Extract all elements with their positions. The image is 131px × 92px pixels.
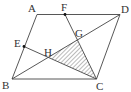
- shaded-triangle-hgc: [48, 40, 97, 79]
- label-f: F: [61, 1, 67, 13]
- label-b: B: [2, 79, 9, 91]
- geometry-figure: A F D E H G B C: [0, 0, 131, 92]
- label-d: D: [121, 3, 129, 15]
- label-c: C: [96, 80, 103, 92]
- point-f-dot: [64, 13, 67, 16]
- figure-svg: A F D E H G B C: [0, 0, 131, 92]
- label-h: H: [44, 46, 52, 58]
- point-e-dot: [23, 45, 26, 48]
- label-a: A: [28, 2, 36, 14]
- label-g: G: [75, 27, 83, 39]
- label-e: E: [14, 37, 21, 49]
- diagonal-bd: [12, 15, 120, 80]
